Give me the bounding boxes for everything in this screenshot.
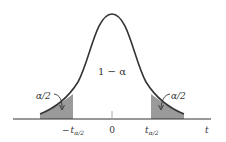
axis-variable-label: t — [205, 125, 209, 135]
right-tail-label: α/2 — [171, 91, 186, 101]
density-curve — [40, 14, 184, 114]
center-area-label: 1 − α — [98, 66, 126, 77]
t-distribution-diagram: 1 − α α/2 α/2 −tα/2 0 tα/2 t — [0, 0, 226, 142]
left-critical-label: −tα/2 — [62, 125, 84, 136]
zero-label: 0 — [109, 125, 115, 135]
right-critical-label: tα/2 — [145, 125, 159, 136]
left-tail-label: α/2 — [36, 91, 51, 101]
